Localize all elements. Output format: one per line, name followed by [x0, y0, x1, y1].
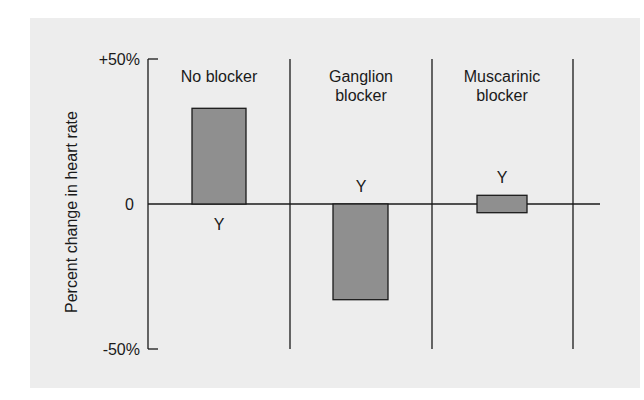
category-label-ganglion-line1: Ganglion: [329, 68, 393, 85]
y-tick-label-top: +50%: [99, 51, 140, 68]
category-label-muscarinic-line2: blocker: [476, 87, 528, 104]
category-label-no-blocker: No blocker: [181, 68, 258, 85]
bar-marker-ganglion: Y: [356, 178, 367, 195]
category-label-muscarinic-line1: Muscarinic: [464, 68, 540, 85]
bar-chart: +50% 0 -50% Percent change in heart rate…: [0, 0, 644, 400]
y-tick-label-bottom: -50%: [103, 341, 140, 358]
category-label-ganglion-line2: blocker: [335, 87, 387, 104]
bar-muscarinic-blocker: [477, 195, 527, 212]
y-axis-label: Percent change in heart rate: [63, 111, 80, 313]
y-tick-label-zero: 0: [125, 196, 134, 213]
bar-marker-no-blocker: Y: [214, 216, 225, 233]
bar-no-blocker: [192, 108, 246, 204]
bar-ganglion-blocker: [333, 204, 388, 300]
bar-marker-muscarinic: Y: [497, 169, 508, 186]
